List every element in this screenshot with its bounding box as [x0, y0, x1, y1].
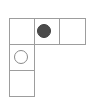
puzzle-board: [0, 0, 94, 105]
grid-cell-r0c0[interactable]: [9, 18, 35, 45]
hollow-circle-token[interactable]: [14, 50, 28, 64]
grid-cell-r2c0[interactable]: [9, 70, 35, 97]
grid-cell-r0c2[interactable]: [59, 18, 86, 45]
filled-circle-token[interactable]: [37, 24, 51, 38]
